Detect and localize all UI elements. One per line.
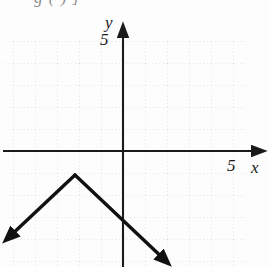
curve-vertex <box>73 173 76 176</box>
coordinate-plane-svg <box>0 0 269 267</box>
y-axis-label: y <box>105 14 113 31</box>
grid-area <box>5 38 245 267</box>
graph-figure: g ( ) ] y x 5 5 <box>0 0 269 267</box>
y-axis-tick-label-5: 5 <box>100 31 109 48</box>
x-axis-tick-label-5: 5 <box>227 157 236 174</box>
x-axis-label: x <box>251 159 259 176</box>
